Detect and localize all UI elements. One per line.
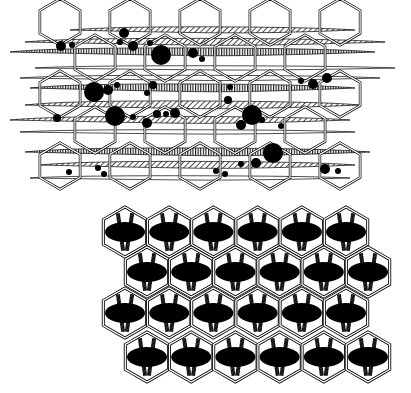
top-panel-disordered (10, 0, 395, 189)
unit-core (326, 303, 366, 323)
particle-dot (170, 108, 180, 118)
hex-unit-cell (125, 332, 168, 382)
hex-unit-cell (214, 332, 257, 382)
particle-dot (308, 79, 318, 89)
particle-dot (263, 143, 283, 163)
fiber-band (30, 84, 355, 92)
particle-dot (163, 111, 169, 117)
particle-dot (278, 123, 284, 129)
unit-core (127, 347, 167, 367)
hex-unit-cell (170, 332, 213, 382)
particle-dot (199, 56, 205, 62)
particle-dot (95, 165, 101, 171)
unit-core (282, 222, 322, 242)
unit-core (260, 347, 300, 367)
particle-dot (153, 110, 161, 118)
hex-unit-cell (302, 247, 345, 297)
unit-core (149, 303, 189, 323)
unit-core (171, 262, 211, 282)
particle-dot (130, 114, 136, 120)
particle-dot (117, 39, 123, 45)
particle-dot (84, 82, 104, 102)
unit-core (193, 222, 233, 242)
hex-unit-cell (280, 288, 323, 338)
unit-core (171, 347, 211, 367)
hex-unit-cell (258, 247, 301, 297)
unit-core (326, 222, 366, 242)
unit-core (149, 222, 189, 242)
particle-dot (56, 41, 66, 51)
particle-dot (119, 28, 129, 38)
particle-dot (224, 96, 232, 104)
hex-unit-cell (148, 288, 191, 338)
fiber-band (20, 130, 355, 134)
particle-dot (298, 78, 304, 84)
unit-core (215, 347, 255, 367)
hex-unit-cell (346, 247, 389, 297)
particle-dot (213, 168, 219, 174)
unit-core (238, 303, 278, 323)
hex-unit-cell (214, 247, 257, 297)
particle-dot (149, 81, 157, 89)
unit-core (260, 262, 300, 282)
particle-dot (151, 45, 171, 65)
hex-unit-cell (236, 288, 279, 338)
particle-dot (114, 82, 120, 88)
particle-dot (142, 118, 152, 128)
hex-unit-cell (258, 332, 301, 382)
unit-core (282, 303, 322, 323)
particle-dot (188, 48, 198, 58)
unit-core (193, 303, 233, 323)
particle-dot (69, 42, 75, 48)
particle-dot (101, 171, 107, 177)
unit-core (348, 262, 388, 282)
hex-unit-cell (302, 332, 345, 382)
particle-dot (238, 161, 244, 167)
unit-core (105, 303, 145, 323)
particle-dot (259, 117, 265, 123)
unit-core (215, 262, 255, 282)
particle-dot (320, 164, 330, 174)
unit-core (127, 262, 167, 282)
hex-unit-cell (192, 288, 235, 338)
particle-dot (53, 114, 61, 122)
figure-canvas: disordered fibrous structure with disper… (0, 0, 411, 393)
particle-dot (322, 73, 332, 83)
fiber-band (70, 27, 355, 33)
hex-unit-cell (125, 247, 168, 297)
particle-dot (236, 120, 246, 130)
particle-dot (222, 171, 228, 177)
particle-dot (128, 41, 138, 51)
hex-unit-cell (346, 332, 389, 382)
particle-dot (105, 106, 125, 126)
unit-core (304, 262, 344, 282)
unit-core (304, 347, 344, 367)
bottom-panel-ordered (103, 207, 389, 382)
unit-core (238, 222, 278, 242)
hex-unit-cell (170, 247, 213, 297)
particle-dot (144, 90, 150, 96)
hex-unit-cell (103, 288, 146, 338)
hex-unit-cell (324, 288, 367, 338)
unit-core (105, 222, 145, 242)
particle-dot (251, 158, 261, 168)
particle-dot (103, 85, 113, 95)
schematic-diagram (0, 0, 411, 393)
particle-dot (335, 168, 341, 174)
fiber-band (40, 161, 355, 168)
particle-dot (227, 84, 233, 90)
unit-core (348, 347, 388, 367)
particle-dot (66, 169, 72, 175)
particle-dot (147, 40, 153, 46)
